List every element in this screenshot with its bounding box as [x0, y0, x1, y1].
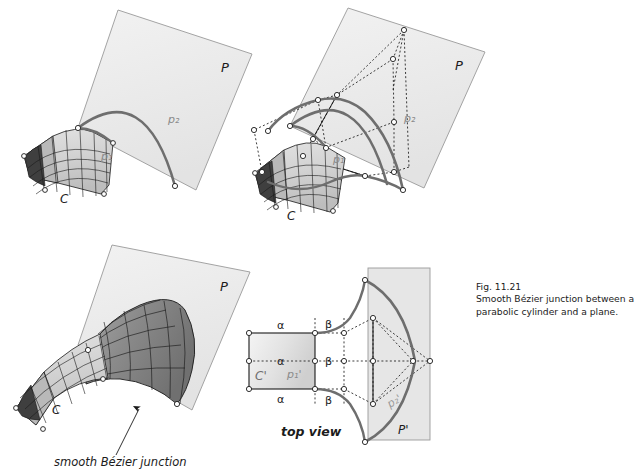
label-curve-p1-prime: p₁' [286, 368, 301, 381]
point-p2-end-panel1 [172, 183, 177, 188]
label-beta-mid: β [325, 355, 332, 368]
panel-top-right: P p₂ p₁ C [251, 8, 485, 223]
label-beta-bottom: β [325, 394, 332, 407]
figure-number: Fig. 11.21 [476, 281, 636, 293]
label-rect-C-prime: C' [255, 369, 267, 383]
panel-top-left: P p₂ p₁ C [22, 10, 252, 206]
label-beta-top: β [325, 318, 332, 331]
panel-bottom-left: P C smooth Bézier junction [14, 245, 250, 469]
curve-p1-prime-top [315, 280, 365, 333]
label-cylinder-C-panel3: C [52, 403, 61, 417]
label-cylinder-C-panel2: C [287, 209, 296, 223]
parabolic-cylinder-panel2 [255, 143, 345, 213]
figure-canvas: P p₂ p₁ C [0, 0, 641, 475]
panel-top-view: α α α β β β C' p₁' p₂' P' top view [246, 268, 432, 445]
point-junction-right-panel3 [174, 401, 179, 406]
label-cylinder-C-panel1: C [60, 192, 69, 206]
figure-caption-line-1: Smooth Bézier junction between a [476, 293, 636, 305]
point-cyl-right-panel1 [102, 192, 107, 197]
label-curve-p2-panel1: p₂ [167, 113, 180, 126]
parabolic-cylinder-panel1 [24, 129, 113, 197]
point-junction-top-panel3 [85, 347, 90, 352]
figure-11-21: P p₂ p₁ C [0, 0, 641, 475]
point-cyl-left-panel1 [22, 154, 27, 159]
point-cyl-left-panel3 [14, 406, 19, 411]
label-plane-P-panel3: P [220, 279, 228, 294]
label-plane-P-panel2: P [455, 58, 463, 73]
label-curve-p2-panel2: p₂ [403, 112, 416, 125]
figure-caption-line-2: parabolic cylinder and a plane. [476, 306, 636, 318]
point-p2-start-panel1 [75, 125, 80, 130]
label-curve-p1-panel1: p₁ [100, 150, 112, 163]
label-plane-P-prime: P' [398, 423, 409, 437]
label-alpha-mid: α [277, 355, 284, 368]
annotation-arrow [116, 409, 139, 455]
annotation-smooth-bezier-junction: smooth Bézier junction [54, 455, 187, 469]
figure-caption: Fig. 11.21 Smooth Bézier junction betwee… [476, 281, 636, 318]
point-cyl-bottom-panel3 [41, 427, 46, 432]
label-alpha-top: α [277, 319, 284, 332]
label-curve-p1-panel2: p₁ [332, 153, 344, 166]
point-p1-end-panel1 [111, 141, 116, 146]
label-alpha-bottom: α [277, 393, 284, 406]
point-cyl-bottom-panel1 [43, 188, 48, 193]
label-top-view-title: top view [281, 424, 342, 439]
parabolic-cylinder-panel3 [16, 334, 108, 425]
label-plane-P-panel1: P [221, 60, 229, 75]
point-junction-mid-panel3 [101, 377, 106, 382]
